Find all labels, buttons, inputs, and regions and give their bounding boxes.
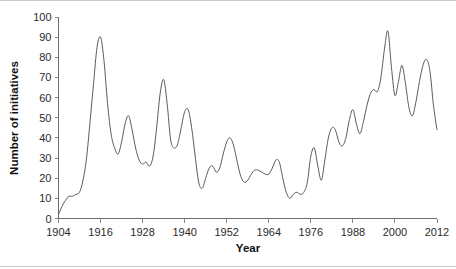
x-tick-label: 2000 <box>383 226 407 238</box>
y-tick-label: 40 <box>39 132 51 144</box>
y-axis-title: Number of initiatives <box>8 61 20 175</box>
x-tick-label: 1952 <box>214 226 238 238</box>
x-tick-label: 1940 <box>172 226 196 238</box>
y-tick-label: 50 <box>39 112 51 124</box>
y-tick-label: 0 <box>45 213 51 225</box>
x-tick-label: 1916 <box>88 226 112 238</box>
y-tick-label: 60 <box>39 92 51 104</box>
x-tick-label: 1928 <box>130 226 154 238</box>
initiatives-series-line <box>59 31 438 215</box>
y-tick-label: 30 <box>39 152 51 164</box>
x-tick-label: 1964 <box>257 226 281 238</box>
y-tick-label: 80 <box>39 51 51 63</box>
x-axis-ticks <box>59 219 438 223</box>
x-tick-label: 1988 <box>341 226 365 238</box>
y-tick-label: 90 <box>39 31 51 43</box>
line-chart-plot: 0102030405060708090100 19041916192819401… <box>0 0 456 269</box>
y-tick-label: 70 <box>39 71 51 83</box>
x-tick-label: 2012 <box>425 226 449 238</box>
y-axis-ticks <box>55 17 59 219</box>
x-tick-label: 1904 <box>46 226 70 238</box>
y-axis-tick-labels: 0102030405060708090100 <box>33 11 51 225</box>
y-tick-label: 100 <box>33 11 51 23</box>
x-axis-tick-labels: 1904191619281940195219641976198820002012 <box>46 226 449 238</box>
y-tick-label: 10 <box>39 192 51 204</box>
chart-figure: 0102030405060708090100 19041916192819401… <box>0 0 456 269</box>
x-tick-label: 1976 <box>299 226 323 238</box>
y-tick-label: 20 <box>39 172 51 184</box>
x-axis-title: Year <box>236 242 261 254</box>
